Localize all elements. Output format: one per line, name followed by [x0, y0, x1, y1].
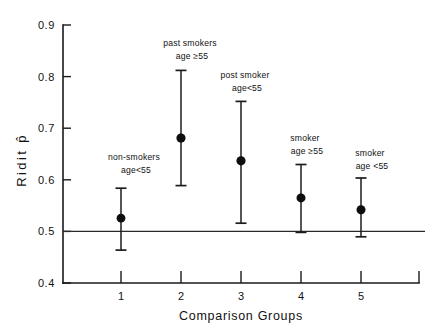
- annotation-label-2-line2: age ≥55: [176, 51, 208, 61]
- y-axis-title-group: Ridit p̂: [14, 133, 29, 187]
- annotation-label-1-line1: non-smokers: [108, 152, 160, 162]
- y-tick-label-0.4: 0.4: [38, 277, 55, 289]
- chart-canvas: 0.9 0.8 0.7 0.6 0.5 0.4 1 2 3 4 5 Compar…: [0, 0, 438, 330]
- annotation-label-4-line1: smoker: [290, 133, 319, 143]
- y-tick-label-0.8: 0.8: [38, 71, 55, 83]
- x-tick-label-1: 1: [118, 290, 124, 302]
- x-tick-label-2: 2: [178, 290, 184, 302]
- x-tick-label-5: 5: [358, 290, 364, 302]
- x-tick-label-4: 4: [298, 290, 304, 302]
- y-tick-label-0.5: 0.5: [38, 225, 55, 237]
- y-tick-label-0.9: 0.9: [38, 19, 55, 31]
- marker-2: [176, 134, 185, 143]
- ridit-chart-figure: 0.9 0.8 0.7 0.6 0.5 0.4 1 2 3 4 5 Compar…: [0, 0, 438, 330]
- annotation-label-3-line2: age<55: [232, 83, 262, 93]
- marker-3: [236, 156, 245, 165]
- annotation-label-4-line2: age ≥55: [291, 146, 323, 156]
- annotation-label-5-line1: smoker: [355, 148, 384, 158]
- marker-1: [117, 214, 126, 223]
- marker-5: [357, 205, 366, 214]
- marker-4: [297, 193, 306, 202]
- x-tick-label-3: 3: [238, 290, 244, 302]
- annotation-label-5-line2: age <55: [356, 161, 389, 171]
- annotation-label-1-line2: age<55: [121, 165, 151, 175]
- y-axis-title: Ridit p̂: [14, 133, 29, 187]
- annotation-label-3-line1: post smoker: [220, 70, 269, 80]
- annotation-label-2-line1: past smokers: [163, 38, 217, 48]
- x-axis-title: Comparison Groups: [179, 309, 303, 323]
- y-tick-label-0.6: 0.6: [38, 174, 55, 186]
- y-tick-label-0.7: 0.7: [38, 122, 55, 134]
